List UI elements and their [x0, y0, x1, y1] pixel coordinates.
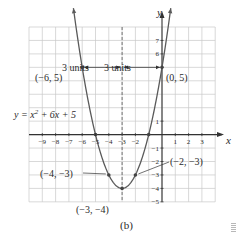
units-label-right: 3 units [104, 62, 131, 73]
pointer-line [83, 173, 106, 174]
x-tick-label: −4 [105, 138, 113, 146]
x-axis-label: x [225, 134, 231, 146]
x-tick-label: −9 [39, 138, 47, 146]
point-label-neg4-neg3: (−4, −3) [40, 168, 73, 180]
data-point [120, 187, 124, 191]
x-tick-label: −3 [118, 138, 126, 146]
arrowhead-icon [156, 66, 160, 70]
equation-label: y = x2 + 6x + 5 [13, 108, 76, 120]
parabola-figure: −9−8−7−6−5−4−3−2123761−1−2−3−4−5 y x 3 u… [0, 0, 241, 244]
point-label-neg2-neg3: (−2, −3) [170, 156, 203, 168]
x-tick-label: 2 [187, 138, 191, 146]
x-tick-label: −8 [52, 138, 60, 146]
corner-mark [231, 222, 236, 232]
data-point [160, 66, 164, 70]
x-axis-arrow-icon [217, 132, 224, 137]
data-point [147, 133, 151, 137]
x-tick-label: −7 [65, 138, 73, 146]
x-tick-label: 3 [200, 138, 204, 146]
y-tick-label: −5 [152, 198, 160, 206]
figure-caption: (b) [120, 219, 133, 231]
data-point [107, 173, 111, 177]
y-tick-label: −2 [152, 158, 160, 166]
point-label-0-5: (0, 5) [166, 72, 188, 84]
point-label-neg6-5: (−6, 5) [35, 72, 62, 84]
x-tick-label: −2 [132, 138, 140, 146]
x-tick-label: −6 [78, 138, 86, 146]
y-axis-label: y [156, 6, 162, 18]
y-tick-label: −4 [152, 185, 160, 193]
vertex-label: (−3, −4) [76, 204, 109, 216]
x-tick-label: 1 [174, 138, 178, 146]
x-tick-label: −5 [92, 138, 100, 146]
y-tick-label: −3 [152, 171, 160, 179]
data-point [134, 173, 138, 177]
y-tick-label: 1 [156, 118, 160, 126]
y-tick-label: −1 [152, 145, 160, 153]
y-tick-label: 7 [156, 37, 160, 45]
parabola-plot: −9−8−7−6−5−4−3−2123761−1−2−3−4−5 y x 3 u… [0, 0, 241, 244]
units-label-left: 3 units [62, 62, 89, 73]
y-tick-label: 6 [156, 50, 160, 58]
